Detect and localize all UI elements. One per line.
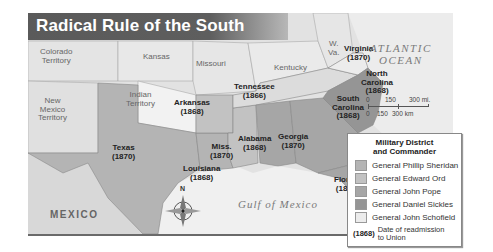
legend-note: (1868) Date of readmission to Union: [353, 226, 461, 242]
label-arkansas: Arkansas (1868): [174, 99, 210, 116]
label-atlantic-ocean: ATLANTIC OCEAN: [370, 42, 432, 66]
scale-km-150: 150: [377, 110, 388, 117]
label-missouri: Missouri: [196, 60, 226, 69]
label-kansas: Kansas: [143, 53, 170, 62]
scale-km-300: 300 km: [392, 110, 413, 117]
legend-swatch: [355, 160, 367, 171]
title-bar: Radical Rule of the South: [28, 13, 288, 40]
label-indian-territory: Indian Territory: [126, 91, 155, 108]
legend-swatch: [355, 199, 367, 210]
label-kentucky: Kentucky: [274, 64, 307, 73]
label-south-carolina: South Carolina (1868): [332, 95, 364, 121]
label-mississippi: Miss. (1870): [210, 143, 233, 160]
label-gulf-of-mexico: Gulf of Mexico: [238, 198, 318, 210]
map-title: Radical Rule of the South: [36, 16, 244, 36]
legend-note-text: Date of readmission to Union: [378, 226, 445, 242]
legend-item-ord: General Edward Ord: [355, 172, 461, 185]
legend-label: General Daniel Sickles: [372, 200, 453, 209]
label-georgia: Georgia (1870): [278, 133, 308, 150]
scale-km-0: 0: [366, 110, 370, 117]
label-north-carolina: North Carolina (1868): [361, 70, 393, 96]
legend-item-pope: General John Pope: [355, 185, 461, 198]
label-virginia: Virginia (1870): [344, 45, 373, 62]
legend: Military District and Commander General …: [347, 133, 462, 247]
legend-item-sickles: General Daniel Sickles: [355, 198, 461, 211]
scale-mi-300: 300 mi.: [409, 96, 430, 103]
legend-swatch: [355, 186, 367, 197]
compass-rose-icon: N: [163, 185, 203, 227]
label-louisiana: Louisiana (1868): [183, 165, 220, 182]
legend-label: General John Pope: [372, 187, 441, 196]
legend-note-key: (1868): [353, 229, 375, 238]
legend-swatch: [355, 212, 367, 223]
legend-title: Military District and Commander: [348, 138, 461, 156]
legend-label: General Phillip Sheridan: [372, 161, 458, 170]
label-tennessee: Tennessee (1866): [234, 83, 275, 100]
compass-north-label: N: [180, 185, 185, 192]
label-west-virginia: W. Va.: [328, 40, 339, 57]
legend-swatch: [355, 173, 367, 184]
legend-label: General Edward Ord: [372, 174, 445, 183]
scale-mi-0: 0: [366, 96, 370, 103]
label-alabama: Alabama (1868): [238, 135, 271, 152]
label-colorado: Colorado Territory: [40, 48, 72, 65]
label-new-mexico: New Mexico Territory: [38, 97, 67, 123]
label-texas: Texas (1870): [112, 144, 135, 161]
legend-item-schofield: General John Schofield: [355, 211, 461, 224]
scale-mi-150: 150: [385, 96, 396, 103]
legend-label: General John Schofield: [372, 213, 455, 222]
label-mexico: MEXICO: [50, 209, 98, 220]
legend-item-sheridan: General Phillip Sheridan: [355, 159, 461, 172]
